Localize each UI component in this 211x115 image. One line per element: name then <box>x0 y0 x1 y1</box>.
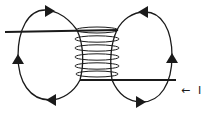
arrow-up-icon <box>166 53 178 63</box>
arrow-up-icon <box>12 54 24 64</box>
current-arrow: ← <box>181 84 190 97</box>
current-label: I <box>198 84 201 97</box>
left-field-loop <box>18 10 80 100</box>
right-field-loop <box>112 12 172 102</box>
arrow-left-icon <box>138 6 148 18</box>
arrow-left-icon <box>46 94 56 106</box>
arrow-right-icon <box>45 5 55 17</box>
arrow-right-icon <box>136 96 146 108</box>
solenoid-diagram <box>0 0 211 115</box>
